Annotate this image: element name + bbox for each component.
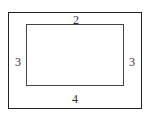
right-margin-label: 3 — [129, 56, 135, 68]
top-margin-label: 2 — [73, 14, 79, 26]
inner-rectangle — [26, 24, 124, 86]
left-margin-label: 3 — [15, 56, 21, 68]
bottom-margin-label: 4 — [72, 93, 78, 105]
